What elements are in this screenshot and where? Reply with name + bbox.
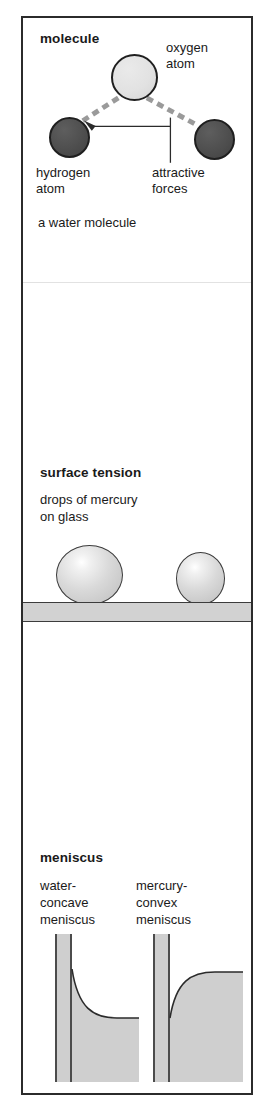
mercury-meniscus-label-line3: meniscus <box>136 912 191 928</box>
water-concave-meniscus-diagram <box>55 934 155 1082</box>
oxygen-label-line2: atom <box>166 56 195 72</box>
section-heading-meniscus: meniscus <box>40 850 103 865</box>
attractive-forces-label-line1: attractive <box>152 165 205 181</box>
glass-slab <box>23 602 251 622</box>
water-meniscus-label-line1: water- <box>40 878 76 894</box>
hydrogen-atom-left <box>49 117 90 158</box>
mercury-convex-meniscus-diagram <box>153 934 253 1082</box>
water-meniscus-label-line3: meniscus <box>40 912 95 928</box>
mercury-drop-small <box>176 552 225 605</box>
oxygen-label-line1: oxygen <box>166 40 208 56</box>
hydrogen-label-line2: atom <box>36 181 65 197</box>
surface-tension-desc-line1: drops of mercury <box>40 492 138 508</box>
hydrogen-label-line1: hydrogen <box>36 165 90 181</box>
water-meniscus-label-line2: concave <box>40 895 88 911</box>
figure-frame: molecule oxygen atom hydrogen atom attra… <box>21 16 253 1095</box>
mercury-meniscus-label-line1: mercury- <box>136 878 187 894</box>
oxygen-atom <box>111 54 158 101</box>
mercury-meniscus-label-line2: convex <box>136 895 177 911</box>
molecule-caption: a water molecule <box>38 215 136 231</box>
hydrogen-atom-right <box>194 119 235 160</box>
mercury-drop-large <box>56 545 123 605</box>
section-molecule: molecule oxygen atom hydrogen atom attra… <box>23 18 251 283</box>
surface-tension-desc-line2: on glass <box>40 509 88 525</box>
attractive-forces-label-line2: forces <box>152 181 187 197</box>
section-heading-surface-tension: surface tension <box>40 465 141 480</box>
